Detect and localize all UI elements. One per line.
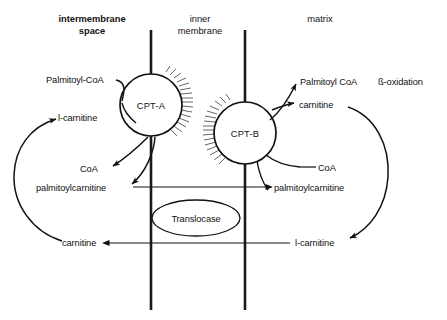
cpt-b-label: CPT-B xyxy=(231,129,259,139)
label-palmitoylcarnitine-left: palmitoylcarnitine xyxy=(36,183,106,193)
cpt-a-node: CPT-A xyxy=(120,74,182,136)
translocase-node: Translocase xyxy=(152,200,240,236)
transport-line-palmitoylcarnitine xyxy=(133,184,273,190)
header-intermembrane-line1: intermembrane xyxy=(58,14,125,24)
transport-line-carnitine xyxy=(102,240,290,246)
recycle-curve-left xyxy=(14,119,62,241)
cpt-a-label: CPT-A xyxy=(137,101,166,111)
label-palmitoyl-coa-right: Palmitoyl CoA xyxy=(300,77,358,87)
header-inner-membrane-line2: membrane xyxy=(178,26,222,36)
arrow-cpt-b-to-palmitoyl-coa xyxy=(270,84,296,120)
header-inner-membrane-line1: inner xyxy=(190,14,211,24)
label-palmitoylcarnitine-right: palmitoylcarnitine xyxy=(274,183,344,193)
header-matrix: matrix xyxy=(307,14,333,24)
recycle-curve-right xyxy=(348,107,388,238)
translocase-label: Translocase xyxy=(171,214,220,224)
curve-coa-to-cpt-b xyxy=(266,155,316,167)
arrow-cpt-a-to-coa xyxy=(113,137,148,166)
diagram-canvas: CPT-A CPT-B Translocase xyxy=(0,0,447,320)
carnitine-shuttle-diagram: CPT-A CPT-B Translocase xyxy=(0,0,447,320)
header-intermembrane-line2: space xyxy=(79,26,105,36)
label-carnitine-left: carnitine xyxy=(62,238,96,248)
label-beta-oxidation: ß-oxidation xyxy=(378,77,423,87)
arrow-cpt-b-to-carnitine xyxy=(272,103,294,110)
label-coa-right: CoA xyxy=(318,163,337,173)
label-carnitine-right: carnitine xyxy=(299,100,333,110)
label-coa-left: CoA xyxy=(80,164,99,174)
label-l-carnitine-right: l-carnitine xyxy=(295,238,334,248)
label-palmitoyl-coa-left: Palmitoyl-CoA xyxy=(46,75,104,85)
label-l-carnitine-left: l-carnitine xyxy=(58,113,97,123)
